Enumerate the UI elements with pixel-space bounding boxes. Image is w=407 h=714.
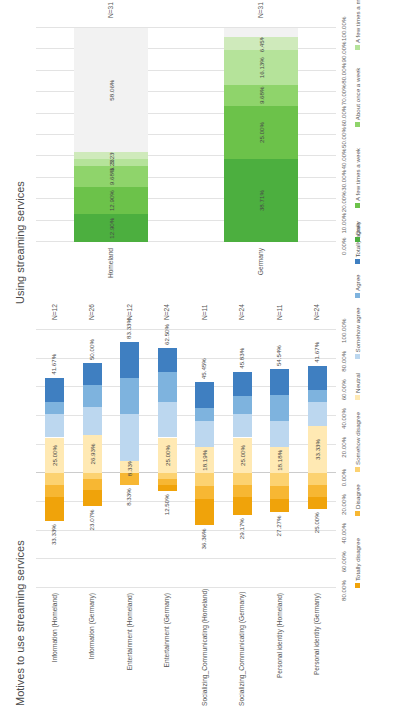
legend-item: A few times a week bbox=[354, 148, 361, 208]
bar-segment bbox=[233, 372, 252, 396]
bar-segment bbox=[45, 497, 64, 521]
bar-segment bbox=[83, 479, 102, 490]
negative-total-label: 8.33% bbox=[125, 488, 132, 515]
sample-size-label: N=24 bbox=[313, 304, 320, 320]
positive-total-label: 45.45% bbox=[200, 358, 207, 379]
axis-tick-label: 20.00% bbox=[340, 191, 347, 212]
sample-size-label: N=12 bbox=[51, 304, 58, 320]
bar-segment bbox=[270, 486, 289, 499]
bar-segment bbox=[308, 366, 327, 390]
gridline bbox=[36, 472, 336, 473]
bar-segment: 38.71% bbox=[224, 159, 298, 242]
bar-segment: 25.00% bbox=[158, 438, 177, 474]
negative-total-label: 36.36% bbox=[200, 528, 207, 555]
bar-segment: 58.06% bbox=[74, 28, 148, 152]
table-row: 29.17%25.00%45.83% bbox=[233, 330, 252, 588]
negative-total-label: 12.50% bbox=[163, 494, 170, 521]
bar-segment bbox=[270, 473, 289, 486]
legend-swatch bbox=[355, 467, 360, 472]
category-label: Entertainment (Homeland) bbox=[126, 593, 133, 706]
bar-segment bbox=[158, 348, 177, 372]
bar-segment bbox=[83, 490, 102, 507]
positive-total-label: 41.67% bbox=[50, 354, 57, 375]
bar-segment bbox=[233, 485, 252, 497]
category-label: Personal identity (Germany) bbox=[313, 593, 320, 706]
bar-segment bbox=[195, 486, 214, 499]
legend-label: Neutral bbox=[354, 373, 361, 393]
legend-label: About once a week bbox=[354, 68, 361, 121]
value-label: 9.68% bbox=[258, 87, 265, 105]
bar-segment bbox=[270, 421, 289, 447]
axis-tick-label: 70.00% bbox=[340, 84, 347, 105]
sample-size-label: N=26 bbox=[88, 304, 95, 320]
neutral-value-label: 25.00% bbox=[239, 445, 246, 466]
gridline bbox=[36, 444, 336, 445]
legend-item: Totally disagree bbox=[354, 538, 361, 588]
bar-segment bbox=[45, 414, 64, 438]
neutral-value-label: 18.18% bbox=[276, 450, 283, 471]
bar-segment bbox=[45, 473, 64, 485]
legend-item: About once a week bbox=[354, 68, 361, 128]
bar-segment bbox=[195, 408, 214, 421]
table-row: 27.27%18.18%54.54% bbox=[270, 330, 289, 588]
bar-segment bbox=[270, 369, 289, 395]
negative-total-label: 23.07% bbox=[88, 509, 95, 536]
category-label: Socializing_Communicating (Germany) bbox=[238, 593, 245, 706]
bar-segment bbox=[83, 407, 102, 435]
legend-label: Totally disagree bbox=[354, 538, 361, 581]
value-label: 58.06% bbox=[108, 80, 115, 101]
axis-tick-label: 20.00% bbox=[340, 437, 347, 458]
bar-segment bbox=[120, 378, 139, 414]
legend-item: Neutral bbox=[354, 373, 361, 400]
axis-tick-label: 40.00% bbox=[340, 148, 347, 169]
bar-segment bbox=[158, 485, 177, 491]
positive-total-label: 41.67% bbox=[313, 342, 320, 363]
bar-segment: 6.45% bbox=[224, 37, 298, 51]
table-row: 12.90%12.90%9.68%3.23%3.23%58.06% bbox=[74, 28, 148, 242]
bar-segment bbox=[233, 414, 252, 438]
sample-size-label: N=31 bbox=[107, 2, 114, 18]
axis-tick-label: 60.00% bbox=[340, 551, 347, 572]
legend-label: A few times a month bbox=[354, 0, 361, 43]
sample-size-label: N=24 bbox=[238, 304, 245, 320]
gridline bbox=[36, 329, 336, 330]
axis-tick-label: 40.00% bbox=[340, 523, 347, 544]
legend-label: Daily bbox=[354, 221, 361, 235]
negative-total-label: 25.00% bbox=[313, 512, 320, 539]
legend-swatch bbox=[355, 355, 360, 360]
bar-segment: 25.00% bbox=[45, 438, 64, 474]
sample-size-label: N=31 bbox=[257, 2, 264, 18]
legend-item: Somehow agree bbox=[354, 307, 361, 359]
bar-segment bbox=[45, 402, 64, 414]
value-label: 6.45% bbox=[258, 35, 265, 53]
bar-segment bbox=[45, 378, 64, 402]
category-label: Information (Germany) bbox=[88, 593, 95, 706]
axis-tick-label: 10.00% bbox=[340, 213, 347, 234]
positive-total-label: 45.83% bbox=[238, 348, 245, 369]
neutral-value-label: 33.33% bbox=[314, 439, 321, 460]
bar-segment bbox=[195, 499, 214, 525]
bar-segment bbox=[308, 390, 327, 402]
bar-segment bbox=[224, 28, 298, 37]
legend-swatch bbox=[355, 583, 360, 588]
bar-segment: 3.23% bbox=[74, 152, 148, 159]
rotated-canvas: Motives to use streaming services 33.33%… bbox=[0, 0, 407, 714]
legend-label: Somehow agree bbox=[354, 307, 361, 352]
axis-tick-label: 50.00% bbox=[340, 127, 347, 148]
bar-segment bbox=[233, 497, 252, 515]
bar-segment: 25.00% bbox=[233, 438, 252, 474]
bar-segment: 12.90% bbox=[74, 214, 148, 242]
bar-segment: 25.00% bbox=[224, 106, 298, 160]
neutral-value-label: 26.93% bbox=[89, 444, 96, 465]
bar-segment: 16.13% bbox=[224, 50, 298, 85]
bar-segment bbox=[233, 473, 252, 485]
table-row: 33.33%25.00%41.67% bbox=[45, 330, 64, 588]
motives-chart-title: Motives to use streaming services bbox=[14, 540, 26, 706]
gridline bbox=[36, 530, 336, 531]
bar-segment bbox=[195, 473, 214, 486]
using-chart: Using streaming services 12.90%12.90%9.6… bbox=[14, 8, 394, 304]
bar-segment bbox=[45, 485, 64, 497]
neutral-value-label: 18.19% bbox=[201, 450, 208, 471]
legend-swatch bbox=[355, 237, 360, 242]
category-label: Socializing_Communicating (Homeland) bbox=[201, 593, 208, 706]
